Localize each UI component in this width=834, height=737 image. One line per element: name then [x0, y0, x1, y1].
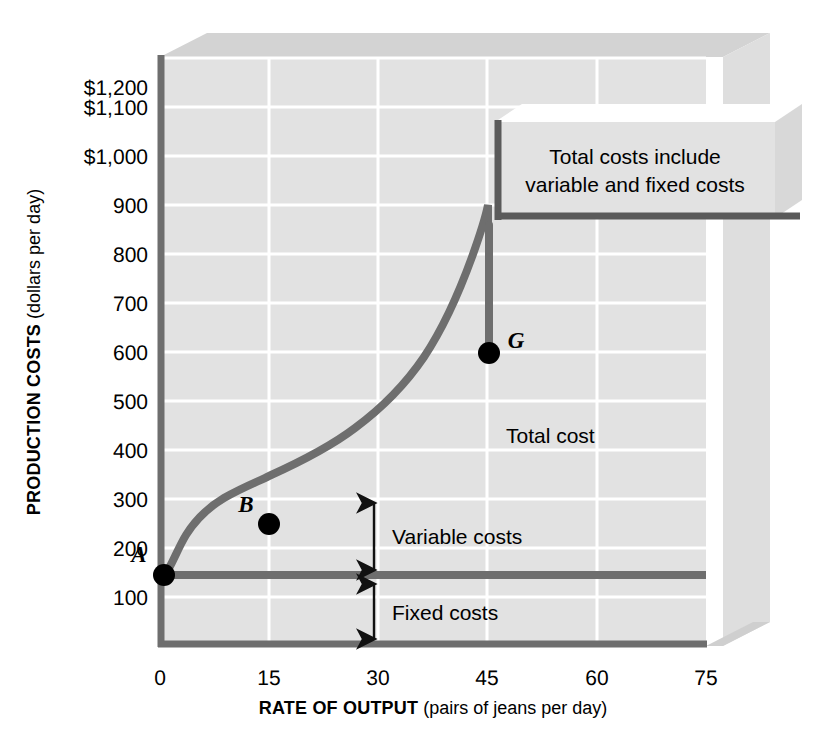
- production-cost-chart: A B G Total cost Variable costs Fixed co…: [0, 0, 834, 737]
- y-tick-400: 400: [113, 440, 148, 463]
- data-point-g[interactable]: [478, 342, 500, 364]
- y-tick-300: 300: [113, 489, 148, 512]
- data-point-a[interactable]: [153, 564, 175, 586]
- x-tick-30: 30: [366, 667, 389, 690]
- data-point-g-label: G: [508, 328, 525, 353]
- bevel-top: [160, 33, 770, 57]
- callout-bevel-right: [775, 104, 802, 218]
- y-tick-1100: $1,100: [84, 97, 148, 120]
- y-tick-labels: 100 200 300 400 500 600 700 800 900 $1,0…: [84, 77, 148, 610]
- callout-box: Total costs include variable and fixed c…: [495, 104, 802, 220]
- y-tick-1200: $1,200: [84, 77, 148, 100]
- chart-figure: A B G Total cost Variable costs Fixed co…: [0, 0, 834, 737]
- x-tick-45: 45: [475, 667, 498, 690]
- x-axis-title: RATE OF OUTPUT (pairs of jeans per day): [259, 698, 608, 718]
- y-tick-200: 200: [113, 538, 148, 561]
- total-cost-label: Total cost: [506, 424, 595, 447]
- x-tick-labels: 0 15 30 45 60 75: [154, 667, 718, 690]
- data-point-b[interactable]: [258, 513, 280, 535]
- y-tick-100: 100: [113, 587, 148, 610]
- callout-face: [495, 122, 775, 218]
- y-tick-800: 800: [113, 244, 148, 267]
- x-tick-15: 15: [257, 667, 280, 690]
- y-axis-title: PRODUCTION COSTS (dollars per day): [24, 189, 44, 515]
- y-tick-500: 500: [113, 391, 148, 414]
- y-tick-700: 700: [113, 293, 148, 316]
- x-axis-title-bold: RATE OF OUTPUT: [259, 698, 418, 718]
- y-tick-600: 600: [113, 342, 148, 365]
- callout-line-2: variable and fixed costs: [525, 173, 744, 196]
- x-tick-60: 60: [585, 667, 608, 690]
- variable-costs-label: Variable costs: [392, 525, 522, 548]
- x-tick-0: 0: [154, 667, 166, 690]
- y-tick-900: 900: [113, 195, 148, 218]
- fixed-costs-label: Fixed costs: [392, 601, 498, 624]
- data-point-b-label: B: [237, 492, 253, 517]
- x-tick-75: 75: [694, 667, 717, 690]
- y-axis-title-regular: (dollars per day): [24, 189, 44, 324]
- y-axis-title-bold: PRODUCTION COSTS: [24, 324, 44, 515]
- callout-line-1: Total costs include: [549, 145, 721, 168]
- callout-bevel-top: [495, 104, 802, 122]
- x-axis-title-regular: (pairs of jeans per day): [418, 698, 607, 718]
- y-tick-1000: $1,000: [84, 146, 148, 169]
